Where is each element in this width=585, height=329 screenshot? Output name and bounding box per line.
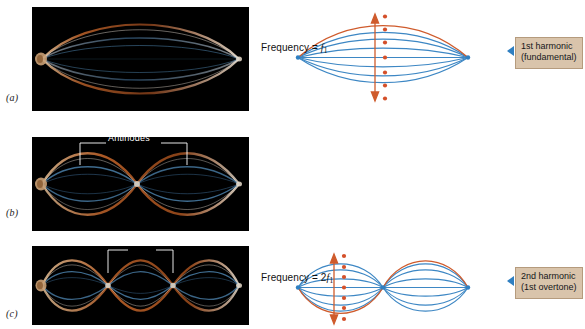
frequency-label-first-harmonic: Frequency = f1	[261, 42, 328, 55]
callout-a-line2: (fundamental)	[521, 52, 577, 63]
standing-wave-photo-first-harmonic	[32, 7, 249, 111]
antinodes-label: Antinodes	[108, 133, 150, 143]
panel-letter-a: (a)	[6, 92, 18, 103]
nodes-label: Nodes	[130, 238, 157, 248]
schematic-a-render	[258, 0, 508, 115]
standing-wave-diagram-first-harmonic	[258, 0, 508, 115]
photo-c-render	[32, 246, 249, 325]
standing-wave-photo-second-harmonic	[32, 137, 249, 231]
panel-letter-c: (c)	[6, 308, 18, 319]
panel-row-c: (c)	[0, 230, 585, 329]
callout-pointer-a	[507, 46, 514, 56]
panel-row-a: (a)	[0, 0, 585, 115]
standing-wave-photo-third-harmonic	[32, 246, 249, 325]
panel-row-b: (b)	[0, 115, 585, 230]
standing-waves-figure: (a)	[0, 0, 585, 329]
photo-a-render	[32, 7, 249, 111]
frequency-prefix-a: Frequency =	[261, 42, 321, 53]
panel-letter-b: (b)	[6, 207, 18, 218]
callout-a-line1: 1st harmonic	[521, 41, 573, 51]
harmonic-callout-first: 1st harmonic (fundamental)	[515, 37, 583, 69]
photo-b-render	[32, 137, 249, 231]
frequency-subscript-a: 1	[324, 46, 328, 55]
